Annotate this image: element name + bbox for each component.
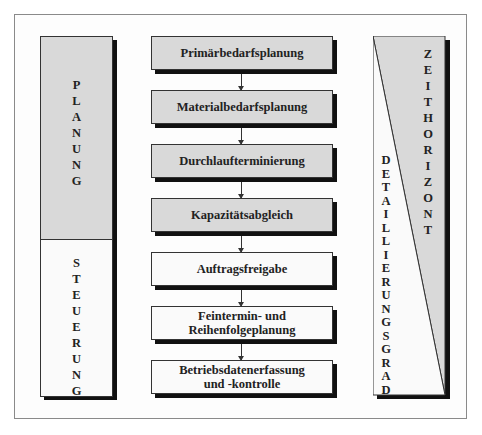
letter: E	[41, 287, 112, 303]
down-arrow-icon	[241, 344, 242, 360]
zeithorizont-label: ZEITHORIZONT	[416, 46, 440, 238]
letter: E	[41, 319, 112, 335]
letter: E	[374, 168, 398, 182]
process-step-box: Auftragsfreigabe	[151, 252, 333, 286]
step-label: Betriebsdatenerfassung	[179, 363, 305, 377]
letter: G	[374, 343, 398, 357]
letter: U	[374, 289, 398, 303]
letter: Z	[416, 46, 440, 62]
steuerung-label: STEUERUNG	[41, 255, 112, 399]
letter: L	[41, 93, 112, 109]
step-label: Feintermin- und	[189, 309, 296, 323]
letter: I	[416, 158, 440, 174]
left-column-steuerung: STEUERUNG	[40, 239, 113, 397]
letter: O	[416, 126, 440, 142]
step-label: Kapazitätsabgleich	[191, 208, 293, 222]
process-step-box: Primärbedarfsplanung	[151, 36, 333, 70]
letter: N	[41, 125, 112, 141]
step-label: Auftragsfreigabe	[197, 262, 288, 276]
letter: U	[41, 141, 112, 157]
letter: N	[41, 367, 112, 383]
letter: A	[41, 109, 112, 125]
step-label: Materialbedarfsplanung	[177, 100, 308, 114]
letter: S	[41, 255, 112, 271]
detaillierungsgrad-label: DETAILLIERUNGSGRAD	[374, 154, 398, 397]
letter: N	[416, 206, 440, 222]
letter: U	[41, 303, 112, 319]
letter: A	[374, 195, 398, 209]
letter: P	[41, 77, 112, 93]
left-column-planung: PLANUNG	[40, 36, 113, 240]
down-arrow-icon	[241, 128, 242, 144]
letter: T	[41, 271, 112, 287]
letter: G	[41, 383, 112, 399]
letter: R	[374, 276, 398, 290]
letter: N	[41, 157, 112, 173]
letter: D	[374, 154, 398, 168]
letter: A	[374, 370, 398, 384]
letter: D	[374, 384, 398, 398]
process-step-box: Betriebsdatenerfassungund -kontrolle	[151, 360, 333, 394]
letter: G	[374, 316, 398, 330]
down-arrow-icon	[241, 74, 242, 90]
step-label: Primärbedarfsplanung	[181, 46, 304, 60]
down-arrow-icon	[241, 182, 242, 198]
process-step-box: Materialbedarfsplanung	[151, 90, 333, 124]
letter: T	[416, 94, 440, 110]
down-arrow-icon	[241, 290, 242, 306]
letter: L	[374, 222, 398, 236]
letter: I	[374, 208, 398, 222]
process-step-box: Durchlaufterminierung	[151, 144, 333, 178]
letter: I	[416, 78, 440, 94]
letter: S	[374, 330, 398, 344]
letter: I	[374, 249, 398, 263]
planung-label: PLANUNG	[41, 77, 112, 189]
letter: E	[416, 62, 440, 78]
letter: O	[416, 190, 440, 206]
letter: T	[416, 222, 440, 238]
letter: L	[374, 235, 398, 249]
letter: E	[374, 262, 398, 276]
down-arrow-icon	[241, 236, 242, 252]
process-step-box: Feintermin- undReihenfolgeplanung	[151, 306, 333, 340]
letter: H	[416, 110, 440, 126]
process-step-box: Kapazitätsabgleich	[151, 198, 333, 232]
letter: R	[41, 335, 112, 351]
letter: Z	[416, 174, 440, 190]
letter: R	[374, 357, 398, 371]
step-label: Durchlaufterminierung	[179, 154, 304, 168]
step-label: und -kontrolle	[179, 377, 305, 391]
letter: N	[374, 303, 398, 317]
step-label: Reihenfolgeplanung	[189, 323, 296, 337]
letter: U	[41, 351, 112, 367]
letter: R	[416, 142, 440, 158]
letter: G	[41, 173, 112, 189]
letter: T	[374, 181, 398, 195]
